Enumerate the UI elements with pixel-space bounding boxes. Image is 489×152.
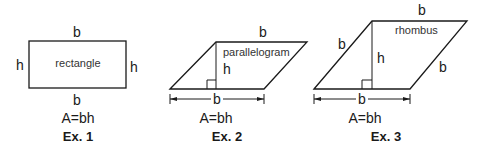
parallelogram-shape-label: parallelogram: [223, 46, 290, 58]
rhombus-caption: Ex. 3: [371, 129, 401, 144]
rhombus-height-label: h: [377, 50, 385, 66]
rhombus-top-label: b: [418, 2, 426, 18]
rhombus-right-side-label: b: [439, 59, 447, 75]
rectangle-bottom-label: b: [73, 92, 81, 108]
parallelogram-base-label: b: [213, 91, 221, 107]
example-1-rectangle: b b h h rectangle A=bh Ex. 1: [16, 24, 138, 144]
rectangle-caption: Ex. 1: [63, 129, 93, 144]
rectangle-top-label: b: [73, 24, 81, 40]
rectangle-formula: A=bh: [61, 110, 94, 126]
arrow-right-icon: [403, 97, 410, 101]
rectangle-left-label: h: [16, 57, 24, 73]
rhombus-shape-label: rhombus: [395, 24, 438, 36]
arrow-left-icon: [314, 97, 321, 101]
rhombus-shape: [314, 21, 467, 89]
example-3-rhombus: b b b b h rhombus A=bh Ex. 3: [314, 2, 467, 144]
rectangle-shape-label: rectangle: [55, 57, 100, 69]
example-2-parallelogram: b b h parallelogram A=bh Ex. 2: [170, 24, 307, 144]
right-angle-marker: [362, 80, 372, 89]
parallelogram-caption: Ex. 2: [212, 129, 242, 144]
rhombus-formula: A=bh: [348, 110, 381, 126]
parallelogram-top-label: b: [259, 24, 267, 40]
parallelogram-height-label: h: [223, 61, 231, 77]
right-angle-marker: [207, 80, 216, 89]
rhombus-base-label: b: [358, 91, 366, 107]
parallelogram-formula: A=bh: [199, 110, 232, 126]
rectangle-right-label: h: [130, 59, 138, 75]
arrow-left-icon: [170, 97, 177, 101]
rhombus-left-side-label: b: [338, 36, 346, 52]
area-formulas-diagram: b b h h rectangle A=bh Ex. 1 b b h paral…: [0, 0, 489, 152]
arrow-right-icon: [257, 97, 264, 101]
